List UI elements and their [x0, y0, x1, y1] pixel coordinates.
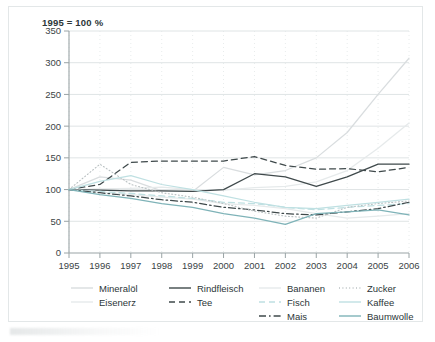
legend-swatch-bananen [259, 283, 281, 293]
legend-label: Zucker [367, 283, 396, 294]
legend-label: Rindfleisch [197, 283, 243, 294]
legend-swatch-mineraloel [71, 283, 93, 293]
legend-swatch-zucker [339, 283, 361, 293]
legend-label: Kaffee [367, 297, 394, 308]
x-tick-label: 2005 [368, 260, 389, 271]
chart-figure: 1995 = 100 % 050100150200250300350199519… [8, 6, 423, 322]
legend-swatch-eisenerz [71, 297, 93, 307]
legend-swatch-tee [169, 297, 191, 307]
legend-item-bananen: Bananen [259, 281, 325, 295]
x-tick-label: 2006 [398, 260, 419, 271]
x-tick-label: 1996 [89, 260, 110, 271]
series-line-eisenerz [69, 123, 409, 190]
legend-item-rindfleisch: Rindfleisch [169, 281, 243, 295]
legend-column: MineralölEisenerz [71, 281, 138, 309]
legend-label: Mineralöl [99, 283, 138, 294]
y-tick-label: 300 [45, 57, 61, 68]
line-chart-svg: 0501001502002503003501995199619971998199… [9, 7, 424, 281]
legend-swatch-rindfleisch [169, 283, 191, 293]
legend-swatch-fisch [259, 297, 281, 307]
x-tick-label: 2002 [275, 260, 296, 271]
legend-label: Baumwolle [367, 311, 413, 322]
x-tick-label: 1999 [182, 260, 203, 271]
x-tick-label: 1998 [151, 260, 172, 271]
legend-column: RindfleischTee [169, 281, 243, 309]
y-tick-label: 150 [45, 152, 61, 163]
legend-label: Bananen [287, 283, 325, 294]
legend-item-baumwolle: Baumwolle [339, 309, 413, 323]
legend-swatch-baumwolle [339, 311, 361, 321]
y-tick-label: 250 [45, 89, 61, 100]
legend-column: BananenFischMais [259, 281, 325, 323]
legend-item-kaffee: Kaffee [339, 295, 413, 309]
legend-item-mineraloel: Mineralöl [71, 281, 138, 295]
y-tick-label: 350 [45, 25, 61, 36]
y-tick-label: 50 [50, 216, 61, 227]
page-artifact [10, 328, 160, 335]
legend-swatch-kaffee [339, 297, 361, 307]
x-tick-label: 2004 [337, 260, 358, 271]
legend-label: Fisch [287, 297, 310, 308]
series-line-minerall [69, 58, 409, 191]
legend-label: Mais [287, 311, 307, 322]
legend-swatch-mais [259, 311, 281, 321]
x-tick-label: 1995 [58, 260, 79, 271]
legend-item-fisch: Fisch [259, 295, 325, 309]
y-tick-label: 200 [45, 121, 61, 132]
y-tick-label: 100 [45, 184, 61, 195]
x-tick-label: 2003 [306, 260, 327, 271]
x-tick-label: 1997 [120, 260, 141, 271]
legend-column: ZuckerKaffeeBaumwolle [339, 281, 413, 323]
plot-area: 0501001502002503003501995199619971998199… [9, 7, 424, 323]
legend-item-eisenerz: Eisenerz [71, 295, 138, 309]
legend-item-zucker: Zucker [339, 281, 413, 295]
x-tick-label: 2001 [244, 260, 265, 271]
legend-label: Tee [197, 297, 212, 308]
x-tick-label: 2000 [213, 260, 234, 271]
chart-legend: MineralölEisenerzRindfleischTeeBananenFi… [9, 281, 424, 323]
legend-item-tee: Tee [169, 295, 243, 309]
legend-label: Eisenerz [99, 297, 136, 308]
y-tick-label: 0 [56, 247, 61, 258]
legend-item-mais: Mais [259, 309, 325, 323]
